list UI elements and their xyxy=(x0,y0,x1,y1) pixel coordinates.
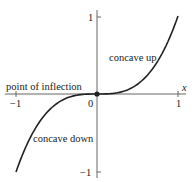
tick-label-x-neg1: −1 xyxy=(10,98,21,109)
tick-label-x-0: 0 xyxy=(88,98,93,109)
chart: −1 0 1 1 −1 x concave up point of inflec… xyxy=(0,0,194,182)
inflection-point-marker xyxy=(94,91,99,96)
annotation-concave-down: concave down xyxy=(33,133,94,144)
tick-label-y-neg1: −1 xyxy=(80,167,91,178)
tick-label-y-1: 1 xyxy=(88,12,93,23)
annotation-concave-up: concave up xyxy=(109,52,157,63)
x-axis-label: x xyxy=(181,82,187,93)
annotation-point-of-inflection: point of inflection xyxy=(6,81,83,92)
tick-label-x-1: 1 xyxy=(176,98,181,109)
